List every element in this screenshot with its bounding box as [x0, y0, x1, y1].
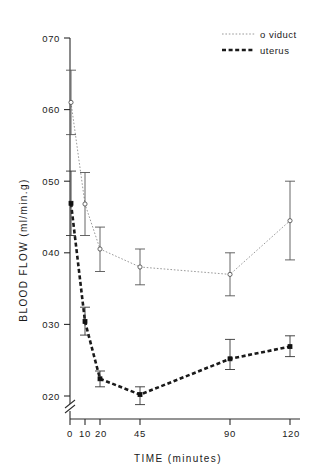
legend-label-uterus: uterus: [260, 45, 289, 56]
x-axis-title: TIME (minutes): [134, 453, 222, 464]
x-tick-label-4: 90: [224, 428, 236, 439]
y-tick-label-2: 050: [42, 176, 60, 187]
x-tick-label-2: 20: [95, 428, 107, 439]
x-tick-label-3: 45: [134, 428, 146, 439]
y-axis-title: BLOOD FLOW (ml/min.g): [18, 178, 29, 321]
x-tick-label-5: 120: [282, 428, 300, 439]
y-tick-label-4: 030: [42, 319, 60, 330]
y-tick-label-5: 020: [42, 391, 60, 402]
y-tick-label-0: 070: [42, 33, 60, 44]
blood-flow-line-chart: 070 060 050 040 030 020 0 10 20 45 90 12…: [0, 0, 332, 474]
y-tick-label-1: 060: [42, 104, 60, 115]
x-tick-label-1: 10: [79, 428, 91, 439]
chart-figure: 070 060 050 040 030 020 0 10 20 45 90 12…: [0, 0, 332, 474]
legend-label-oviduct: o viduct: [260, 29, 297, 40]
x-tick-label-0: 0: [67, 428, 73, 439]
y-tick-label-3: 040: [42, 247, 60, 258]
chart-background: [0, 0, 332, 474]
